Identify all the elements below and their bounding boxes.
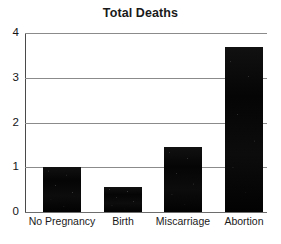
bar [225,47,263,212]
bar [104,187,142,212]
bar [164,147,202,212]
y-axis-tick-label: 3 [0,72,19,84]
x-axis-category-label: Abortion [199,216,281,227]
chart-figure: Total Deaths 01234 No PregnancyBirthMisc… [0,0,281,244]
chart-title: Total Deaths [0,6,281,20]
gridline-4 [25,33,267,34]
y-axis-tick-label: 1 [0,161,19,173]
y-axis-tick-label: 4 [0,27,19,39]
bar [43,167,81,212]
y-axis-tick-label: 2 [0,117,19,129]
gridline-0 [25,212,267,213]
plot-area [25,33,267,212]
